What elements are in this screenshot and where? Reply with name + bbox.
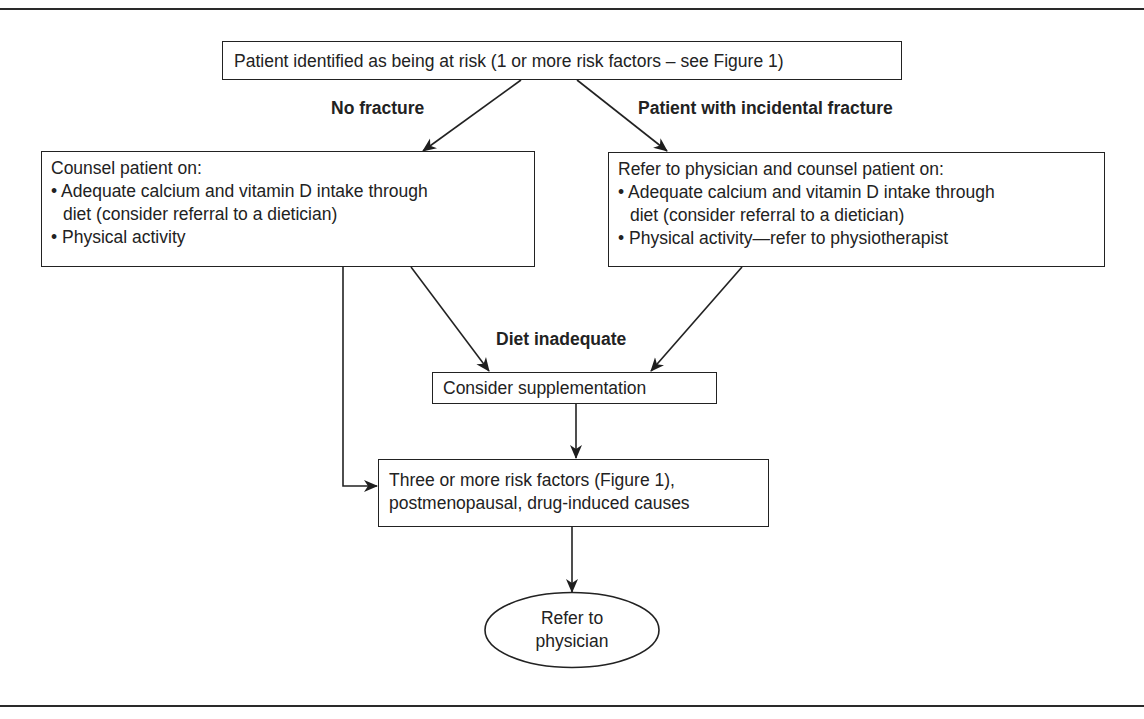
refer-counsel-bullet-1: • Adequate calcium and vitamin D intake … [618,181,1104,204]
counsel-title: Counsel patient on: [51,157,534,180]
refer-counsel-bullet-1-cont: diet (consider referral to a dietician) [618,204,1104,227]
counsel-bullet-1: • Adequate calcium and vitamin D intake … [51,180,534,203]
edge-label-incidental-fracture: Patient with incidental fracture [638,98,893,119]
arrow-refer-counsel-to-supplementation [651,267,742,371]
arrow-counsel-to-supplementation [411,267,489,371]
refer-physician-line-2: physician [485,630,659,653]
edge-label-diet-inadequate: Diet inadequate [496,329,626,350]
start-node-text: Patient identified as being at risk (1 o… [234,50,901,73]
counsel-bullet-2: • Physical activity [51,226,534,249]
refer-physician-line-1: Refer to [485,607,659,630]
refer-counsel-node: Refer to physician and counsel patient o… [608,152,1105,267]
arrow-start-to-counsel [423,80,521,151]
counsel-node: Counsel patient on: • Adequate calcium a… [41,151,535,267]
refer-physician-node: Refer to physician [485,607,659,653]
supplementation-text: Consider supplementation [443,377,716,400]
supplementation-node: Consider supplementation [432,372,717,404]
arrow-counsel-to-risk-factors [343,267,377,486]
start-node: Patient identified as being at risk (1 o… [222,41,902,80]
refer-counsel-bullet-2: • Physical activity—refer to physiothera… [618,227,1104,250]
risk-factors-line-2: postmenopausal, drug-induced causes [389,492,768,515]
counsel-bullet-1-cont: diet (consider referral to a dietician) [51,203,534,226]
edge-label-no-fracture: No fracture [331,98,424,119]
risk-factors-line-1: Three or more risk factors (Figure 1), [389,469,768,492]
risk-factors-node: Three or more risk factors (Figure 1), p… [378,459,769,527]
refer-counsel-title: Refer to physician and counsel patient o… [618,158,1104,181]
